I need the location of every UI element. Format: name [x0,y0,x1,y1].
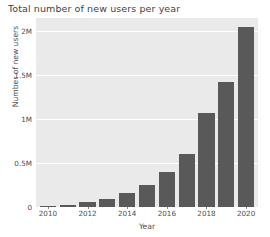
y-tick-label: 2M [4,27,32,36]
y-tick-label: 0 [4,203,32,212]
bar [198,113,214,207]
x-tick-label: 2014 [118,209,136,218]
chart-title: Total number of new users per year [8,3,180,14]
x-tick-label: 2018 [197,209,215,218]
bar [159,172,175,207]
y-tick-label: 0.5M [4,159,32,168]
x-tick-label: 2020 [237,209,255,218]
plot-area [36,18,258,207]
bar [238,27,254,207]
y-tick-label: 1.5M [4,71,32,80]
bar [218,82,234,207]
gridline [36,75,258,76]
y-tick-label: 1M [4,115,32,124]
x-tick-label: 2016 [158,209,176,218]
y-axis-label: Number of new users [11,7,20,127]
gridline [36,207,258,208]
x-tick-label: 2010 [39,209,57,218]
bar [99,199,115,207]
bar [60,205,76,207]
chart-figure: Total number of new users per year Numbe… [0,0,270,237]
bar [179,154,195,207]
bar [139,185,155,207]
x-axis-label: Year [36,222,258,231]
gridline [36,31,258,32]
x-tick-label: 2012 [78,209,96,218]
bar [119,193,135,207]
